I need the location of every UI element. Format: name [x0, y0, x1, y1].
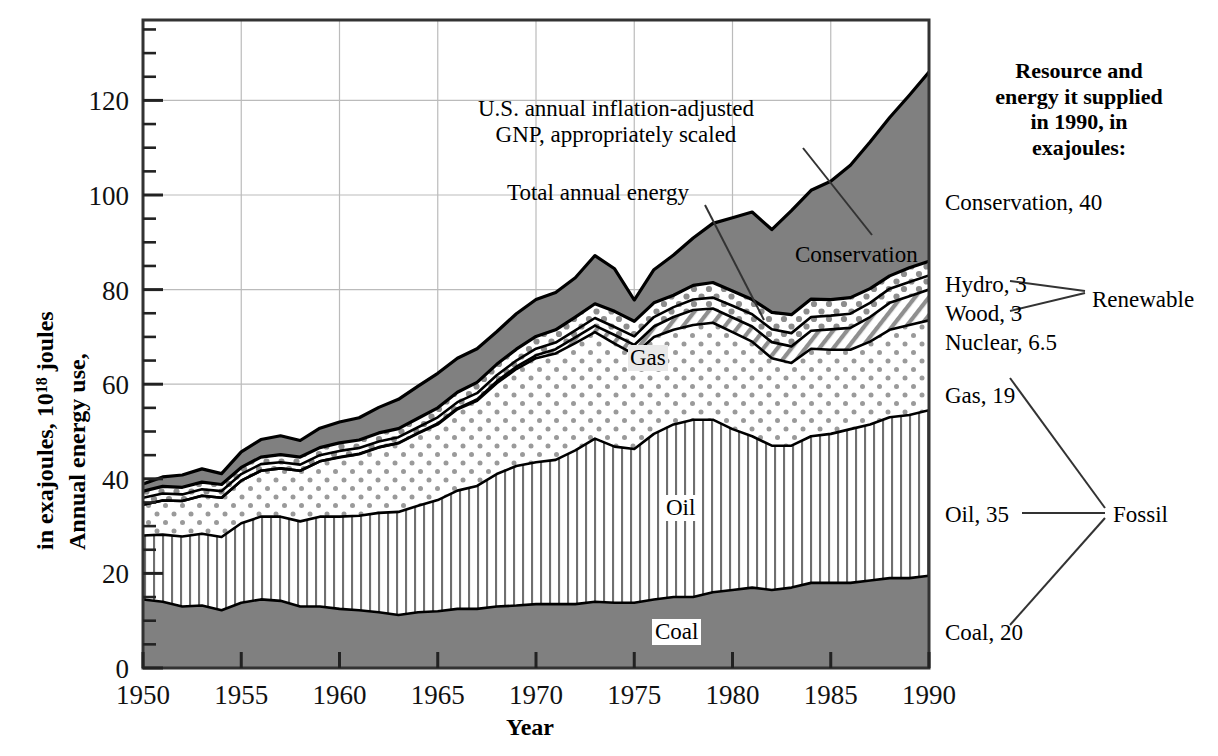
x-tick-label: 1970	[509, 680, 563, 710]
y-tick-label: 60	[102, 370, 129, 400]
y-tick-label: 100	[89, 181, 130, 211]
chart-figure: 0204060801001201950195519601965197019751…	[0, 0, 1218, 756]
annotation-gnp: U.S. annual inflation-adjusted GNP, appr…	[478, 96, 754, 148]
x-axis-title: Year	[506, 714, 554, 740]
y-tick-label: 80	[102, 276, 129, 306]
legend: Resource and energy it supplied in 1990,…	[940, 58, 1218, 160]
x-tick-label: 1950	[116, 680, 170, 710]
legend-item-hydro: Hydro, 3	[945, 272, 1027, 298]
legend-heading: Resource and energy it supplied in 1990,…	[940, 58, 1218, 160]
legend-item-oil: Oil, 35	[945, 502, 1009, 528]
legend-heading-line3: in 1990, in	[940, 109, 1218, 135]
legend-group-renewable: Renewable	[1092, 287, 1194, 313]
legend-item-wood: Wood, 3	[945, 301, 1022, 327]
x-tick-label: 1985	[804, 680, 858, 710]
legend-heading-line1: Resource and	[940, 58, 1218, 84]
inline-label-coal: Coal	[652, 619, 701, 645]
inline-label-conservation: Conservation	[795, 242, 918, 268]
inline-label-gas: Gas	[628, 345, 668, 371]
legend-item-gas: Gas, 19	[945, 383, 1015, 409]
legend-group-fossil: Fossil	[1113, 502, 1168, 528]
annotation-gnp-line1: U.S. annual inflation-adjusted	[478, 96, 754, 122]
y-axis-title-line1: Annual energy use,	[64, 353, 90, 550]
x-tick-label: 1955	[214, 680, 268, 710]
legend-item-coal: Coal, 20	[945, 620, 1023, 646]
legend-item-nuclear: Nuclear, 6.5	[945, 330, 1057, 356]
annotation-total-energy: Total annual energy	[507, 180, 689, 206]
inline-label-oil: Oil	[663, 495, 698, 521]
y-axis-title-line2a: in exajoules, 10	[32, 393, 58, 550]
x-axis-title-wrap: Year	[0, 714, 1060, 741]
y-tick-label: 40	[102, 465, 129, 495]
annotation-gnp-line2: GNP, appropriately scaled	[478, 122, 754, 148]
y-axis-title-exponent: 18	[33, 377, 50, 393]
x-tick-label: 1975	[607, 680, 661, 710]
legend-item-conservation: Conservation, 40	[945, 190, 1102, 216]
y-axis-title-line2b: joules	[32, 311, 58, 377]
y-tick-label: 120	[89, 86, 130, 116]
x-tick-label: 1960	[313, 680, 367, 710]
y-axis-title: Annual energy use, in exajoules, 1018 jo…	[6, 250, 70, 550]
legend-heading-line2: energy it supplied	[940, 84, 1218, 110]
x-tick-label: 1980	[706, 680, 760, 710]
x-tick-label: 1990	[902, 680, 956, 710]
legend-heading-line4: exajoules:	[940, 135, 1218, 161]
y-tick-label: 20	[102, 559, 129, 589]
x-tick-label: 1965	[411, 680, 465, 710]
